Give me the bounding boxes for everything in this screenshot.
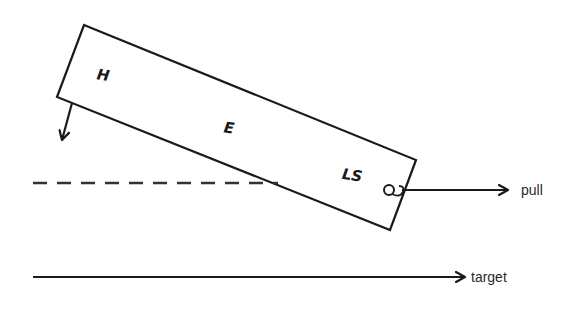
label-ls: LS <box>341 165 364 186</box>
label-e: E <box>223 118 236 137</box>
diagram-svg: H E LS pull target <box>0 0 581 311</box>
target-label: target <box>471 269 507 285</box>
pull-label: pull <box>521 182 543 198</box>
down-arrow <box>62 103 72 140</box>
diagram-canvas: H E LS pull target <box>0 0 581 311</box>
tilted-rectangle-body <box>57 25 416 230</box>
label-h: H <box>96 65 111 85</box>
